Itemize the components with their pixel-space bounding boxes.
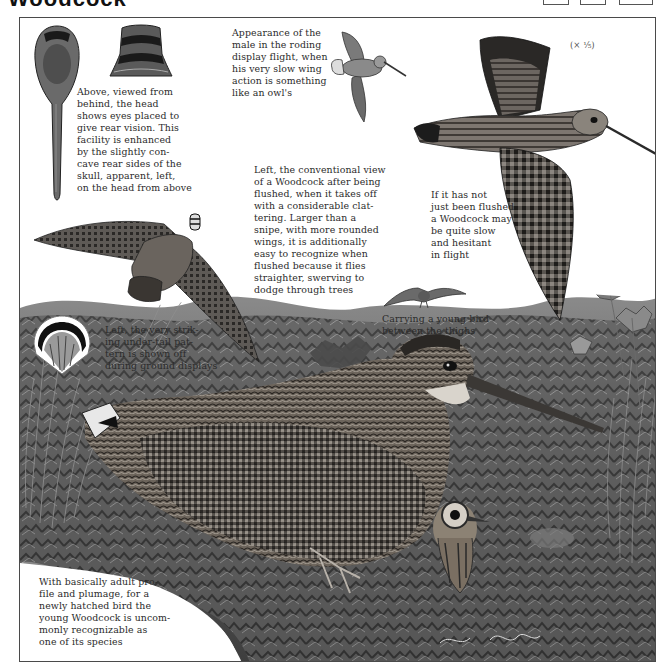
woodcock-tail-fan-icon <box>30 314 94 376</box>
caption-roding: Appearance of the male in the roding dis… <box>232 27 328 99</box>
header-box <box>543 0 569 5</box>
woodcock-carrying-chick-icon <box>384 278 466 310</box>
caption-flushed: Left, the conventional view of a Woodcoc… <box>254 164 386 296</box>
illustration-plate: (× ¹⁄₅) Above, viewed from behind, the h… <box>19 17 656 662</box>
caption-under-tail: Left, the very strik- ing under-tail pat… <box>105 324 217 372</box>
caption-slow-flight: If it has not just been flushed a Woodco… <box>431 189 514 261</box>
woodcock-slow-flight-icon <box>410 30 640 320</box>
woodcock-roding-icon <box>324 30 414 125</box>
woodcock-head-top-view-icon <box>32 24 82 204</box>
header-box <box>580 0 606 5</box>
header-box <box>619 0 653 5</box>
caption-head-rear: Above, viewed from behind, the head show… <box>77 86 192 194</box>
page-title: Woodcock <box>8 0 127 12</box>
scale-note: (× ¹⁄₅) <box>570 40 595 50</box>
caption-carrying: Carrying a young bird between the thighs <box>382 313 489 337</box>
woodcock-head-rear-view-icon <box>110 24 172 82</box>
caption-young: With basically adult pro- file and pluma… <box>39 576 170 648</box>
